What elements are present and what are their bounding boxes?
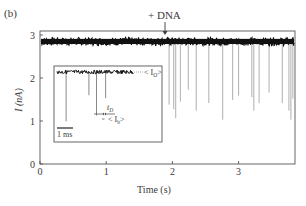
y-tick-label: 1 (30, 116, 35, 127)
x-tick-label: 3 (236, 166, 241, 177)
events-layer (169, 41, 293, 119)
y-axis-label: I (nA) (13, 88, 25, 113)
dna-annotation: + DNA (148, 9, 181, 21)
inset-blocked-label: < Ib> (108, 115, 125, 125)
x-tick-label: 0 (38, 166, 43, 177)
dna-arrowhead-icon (163, 31, 168, 35)
panel-label: (b) (4, 7, 17, 20)
x-tick-label: 1 (104, 166, 109, 177)
x-tick-label: 2 (170, 166, 175, 177)
baseline-trace (41, 37, 294, 45)
y-tick-label: 2 (30, 73, 35, 84)
y-tick-label: 3 (30, 30, 35, 41)
y-tick-label: 0 (30, 159, 35, 170)
baseline-band (41, 39, 294, 44)
x-axis: 0123 (38, 161, 242, 177)
inset-panel: < IO> tD < Ib> 1 ms (54, 66, 162, 142)
x-axis-label: Time (s) (137, 184, 171, 196)
inset-open-label: < IO> (144, 68, 162, 78)
current-trace-chart: (b) + DNA 0123 0123 Time (s) I (nA) < IO… (0, 0, 306, 206)
scale-bar-label: 1 ms (57, 130, 72, 139)
y-axis: 0123 (30, 30, 43, 170)
